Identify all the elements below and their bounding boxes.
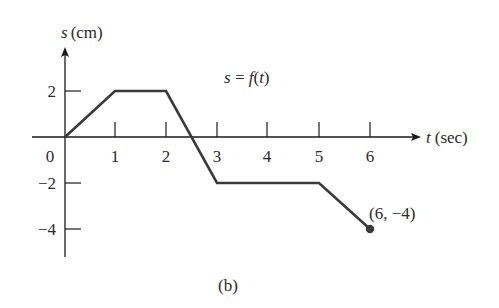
x-tick-label-2: 2 bbox=[162, 147, 171, 166]
y-axis-unit: (cm) bbox=[71, 23, 103, 42]
x-tick-labels: 0 1 2 3 4 5 6 bbox=[46, 147, 375, 166]
endpoint-label: (6, −4) bbox=[369, 204, 415, 223]
chart-svg: 0 1 2 3 4 5 6 2 −2 −4 s(cm) t(sec) s = f… bbox=[0, 0, 499, 308]
y-tick-label-m2: −2 bbox=[38, 174, 56, 193]
figure: 0 1 2 3 4 5 6 2 −2 −4 s(cm) t(sec) s = f… bbox=[0, 0, 499, 308]
x-axis-unit: (sec) bbox=[435, 128, 468, 147]
endpoint-dot bbox=[366, 225, 374, 233]
function-equals: = bbox=[231, 68, 249, 87]
x-tick-label-6: 6 bbox=[366, 147, 375, 166]
figure-caption: (b) bbox=[218, 276, 238, 295]
x-tick-label-4: 4 bbox=[263, 147, 272, 166]
x-tick-label-5: 5 bbox=[315, 147, 324, 166]
x-tick-label-3: 3 bbox=[213, 147, 222, 166]
x-tick-label-1: 1 bbox=[111, 147, 120, 166]
function-paren-close: ) bbox=[264, 68, 270, 87]
y-tick-label-m4: −4 bbox=[38, 220, 57, 239]
y-axis-var: s bbox=[61, 23, 68, 42]
x-axis-label: t(sec) bbox=[426, 128, 468, 147]
x-ticks bbox=[115, 122, 370, 137]
y-axis-label: s(cm) bbox=[61, 23, 103, 42]
x-axis-var: t bbox=[426, 128, 432, 147]
y-ticks bbox=[65, 91, 81, 229]
y-tick-label-2: 2 bbox=[48, 82, 57, 101]
origin-label: 0 bbox=[46, 147, 55, 166]
function-label: s = f(t) bbox=[224, 68, 270, 87]
